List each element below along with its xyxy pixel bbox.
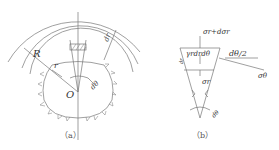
figure-a-labels: R r dr O dθ （a）	[32, 32, 113, 140]
label-dtheta-b: dθ	[210, 108, 220, 118]
label-half-angle: dθ/2	[229, 49, 247, 58]
break-left	[192, 90, 195, 97]
caption-b: （b）	[192, 131, 213, 140]
label-O: O	[66, 89, 74, 100]
label-side-dr: dr	[178, 58, 184, 64]
label-bottom-stress: σr	[202, 78, 211, 86]
element-left-edge	[70, 40, 78, 92]
figure-a	[8, 12, 140, 140]
label-r: r	[54, 61, 59, 70]
dtheta-arc	[70, 76, 88, 78]
dtheta-arc-b	[190, 107, 210, 110]
radius-r-marker	[52, 70, 62, 77]
rock-teeth	[38, 64, 117, 121]
label-tangential-stress: σθ	[258, 72, 268, 80]
figure-b-labels: σr+dσr γrdrdθ σr dθ/2 σθ dθ dr （b）	[178, 28, 268, 140]
caption-a: （a）	[60, 131, 81, 140]
element-right-edge	[78, 40, 86, 92]
label-R: R	[32, 48, 41, 59]
break-right	[205, 90, 208, 97]
figure-b	[180, 36, 264, 118]
label-top-stress: σr+dσr	[203, 28, 230, 36]
diagram-canvas: R r dr O dθ （a） σr+dσr γrdrdθ σr dθ/2 σθ…	[0, 0, 279, 150]
tangential-stress-line	[219, 58, 264, 70]
label-body-force: γrdrdθ	[186, 50, 211, 58]
